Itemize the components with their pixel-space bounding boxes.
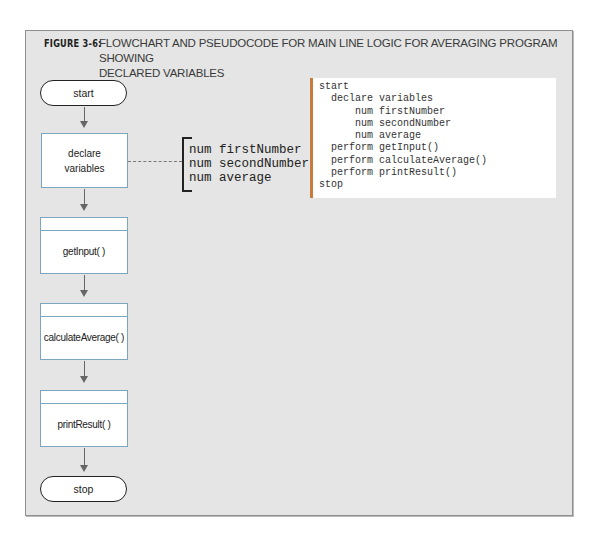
module-calculateaverage: calculateAverage( )	[40, 303, 128, 360]
arrow-down-icon	[80, 121, 88, 128]
module-label: getInput( )	[41, 230, 127, 273]
arrow-down-icon	[80, 204, 88, 211]
declare-variables-process: declare variables	[41, 133, 128, 188]
module-printresult: printResult( )	[40, 390, 128, 447]
arrow-down-icon	[80, 465, 88, 472]
arrow-down-icon	[80, 376, 88, 383]
variable-line: num average	[189, 171, 309, 185]
flow-arrow	[80, 275, 89, 297]
pseudocode-line: perform calculateAverage()	[319, 155, 556, 167]
flow-arrow	[80, 107, 89, 128]
pseudocode-line: start	[319, 81, 556, 93]
flow-arrow	[80, 189, 89, 211]
pseudocode-line: perform printResult()	[319, 167, 556, 179]
caption-line-1: FLOWCHART AND PSEUDOCODE FOR MAIN LINE L…	[99, 36, 559, 66]
variables-annotation: num firstNumber num secondNumber num ave…	[189, 143, 309, 185]
pseudocode-line: perform getInput()	[319, 142, 556, 154]
pseudocode-line: num secondNumber	[319, 118, 556, 130]
module-getinput: getInput( )	[40, 217, 128, 274]
start-label: start	[73, 87, 93, 99]
pseudocode-line: num firstNumber	[319, 106, 556, 118]
figure-label: FIGURE 3-6:	[44, 36, 102, 51]
annotation-connector	[128, 161, 182, 162]
flow-arrow	[80, 361, 89, 383]
declare-label-line-1: declare	[64, 146, 104, 161]
pseudocode-box: start declare variables num firstNumber …	[310, 78, 556, 198]
start-terminal: start	[40, 80, 127, 106]
figure-title: FLOWCHART AND PSEUDOCODE FOR MAIN LINE L…	[99, 36, 559, 81]
arrow-down-icon	[80, 290, 88, 297]
variable-line: num firstNumber	[189, 143, 309, 157]
module-label: calculateAverage( )	[41, 316, 127, 359]
pseudocode-line: stop	[319, 179, 556, 191]
stop-terminal: stop	[40, 476, 127, 502]
variable-line: num secondNumber	[189, 157, 309, 171]
module-label: printResult( )	[41, 403, 127, 446]
stop-label: stop	[74, 483, 94, 495]
pseudocode-line: declare variables	[319, 93, 556, 105]
flow-arrow	[80, 448, 89, 472]
pseudocode-line: num average	[319, 130, 556, 142]
declare-label-line-2: variables	[64, 161, 104, 176]
